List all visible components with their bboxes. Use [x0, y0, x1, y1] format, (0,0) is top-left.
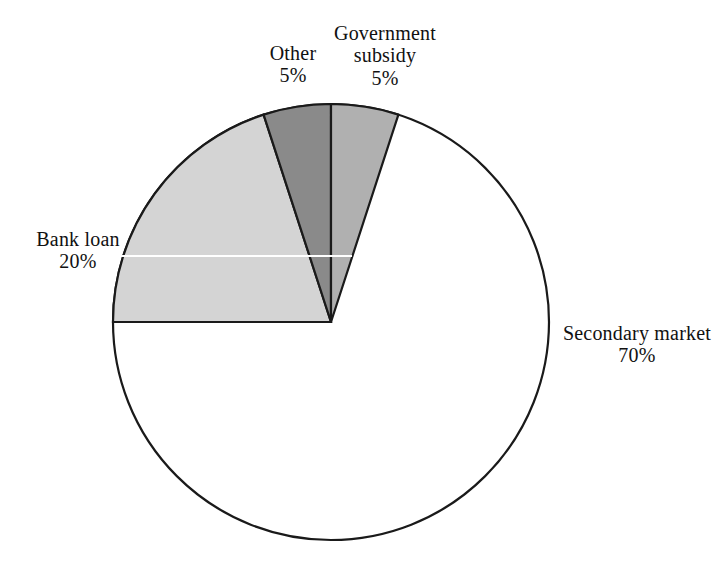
- pie-chart-figure: Other 5% Government subsidy 5% Bank loan…: [0, 0, 726, 573]
- pie-label-secondary-market-value: 70%: [548, 344, 726, 366]
- pie-label-secondary-market-name: Secondary market: [548, 322, 726, 344]
- pie-label-government-subsidy-name-line1: Government: [300, 22, 470, 44]
- pie-label-government-subsidy: Government subsidy 5%: [300, 22, 470, 89]
- pie-label-bank-loan: Bank loan 20%: [8, 228, 148, 273]
- pie-label-bank-loan-name: Bank loan: [8, 228, 148, 250]
- pie-label-secondary-market: Secondary market 70%: [548, 322, 726, 367]
- pie-label-bank-loan-value: 20%: [8, 250, 148, 272]
- pie-label-government-subsidy-value: 5%: [300, 67, 470, 89]
- pie-label-government-subsidy-name-line2: subsidy: [300, 44, 470, 66]
